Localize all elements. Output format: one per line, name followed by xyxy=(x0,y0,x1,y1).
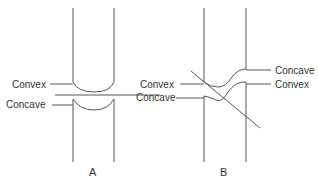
diagram-canvas: Convex Concave A Convex Concave Concave … xyxy=(0,0,318,182)
panel-b-oblique-line xyxy=(191,71,260,128)
panel-a-upper-bone xyxy=(73,8,114,92)
panel-b-label-concave-right: Concave xyxy=(275,65,315,76)
panel-b-caption: B xyxy=(220,166,227,178)
panel-b-label-convex-left: Convex xyxy=(140,79,174,90)
panel-b-label-concave-left: Concave xyxy=(136,92,176,103)
panel-a-label-concave: Concave xyxy=(6,99,46,110)
panel-b-upper-bone xyxy=(204,8,246,87)
panel-a-caption: A xyxy=(89,166,97,178)
panel-a-label-convex: Convex xyxy=(12,79,46,90)
panel-b: Convex Concave Concave Convex B xyxy=(136,8,315,178)
panel-b-lower-bone xyxy=(204,82,246,162)
panel-a-lower-bone xyxy=(73,99,114,162)
panel-b-label-convex-right: Convex xyxy=(275,79,309,90)
joint-surface-diagram: Convex Concave A Convex Concave Concave … xyxy=(0,0,318,182)
